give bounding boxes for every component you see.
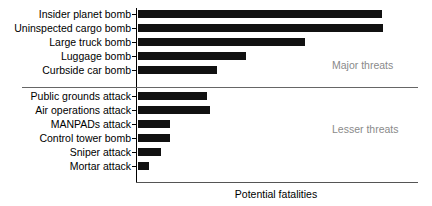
- annotation-major-threats: Major threats: [332, 60, 393, 71]
- bar-control-tower-bomb: [138, 134, 170, 142]
- category-label-luggage-bomb: Luggage bomb: [0, 51, 131, 62]
- axis-tick-6: [132, 110, 137, 111]
- group-divider: [22, 87, 418, 88]
- category-label-manpads-attack: MANPADs attack: [0, 119, 131, 130]
- category-label-public-grounds-attack: Public grounds attack: [0, 91, 131, 102]
- x-axis-title: Potential fatalities: [0, 188, 432, 200]
- axis-tick-8: [132, 138, 137, 139]
- bar-air-operations-attack: [138, 106, 210, 114]
- axis-tick-4: [132, 70, 137, 71]
- bar-manpads-attack: [138, 120, 170, 128]
- bar-public-grounds-attack: [138, 92, 207, 100]
- category-label-insider-planet-bomb: Insider planet bomb: [0, 9, 131, 20]
- bar-sniper-attack: [138, 148, 161, 156]
- category-label-control-tower-bomb: Control tower bomb: [0, 133, 131, 144]
- axis-tick-0: [132, 14, 137, 15]
- horizontal-bar-chart: Insider planet bomb Uninspected cargo bo…: [0, 0, 432, 206]
- category-label-uninspected-cargo-bomb: Uninspected cargo bomb: [0, 23, 131, 34]
- category-label-air-operations-attack: Air operations attack: [0, 105, 131, 116]
- category-label-mortar-attack: Mortar attack: [0, 161, 131, 172]
- category-label-sniper-attack: Sniper attack: [0, 147, 131, 158]
- bar-mortar-attack: [138, 162, 149, 170]
- axis-tick-2: [132, 42, 137, 43]
- bar-curbside-car-bomb: [138, 66, 217, 74]
- axis-tick-5: [132, 96, 137, 97]
- bar-large-truck-bomb: [138, 38, 305, 46]
- axis-tick-7: [132, 124, 137, 125]
- axis-tick-3: [132, 56, 137, 57]
- bar-uninspected-cargo-bomb: [138, 24, 383, 32]
- axis-tick-10: [132, 166, 137, 167]
- value-axis-baseline: [136, 182, 418, 183]
- annotation-lesser-threats: Lesser threats: [332, 124, 399, 135]
- bar-insider-planet-bomb: [138, 10, 382, 18]
- category-label-large-truck-bomb: Large truck bomb: [0, 37, 131, 48]
- category-label-curbside-car-bomb: Curbside car bomb: [0, 65, 131, 76]
- x-axis-title-text: Potential fatalities: [235, 188, 317, 200]
- axis-tick-9: [132, 152, 137, 153]
- axis-tick-1: [132, 28, 137, 29]
- bar-luggage-bomb: [138, 52, 246, 60]
